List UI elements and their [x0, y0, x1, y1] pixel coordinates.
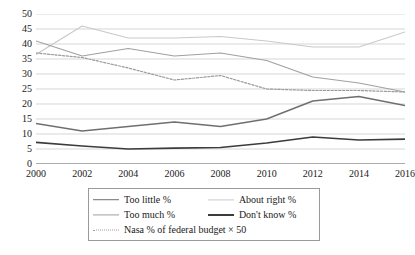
legend-row: Nasa % of federal budget × 50: [93, 222, 315, 237]
legend-item[interactable]: Nasa % of federal budget × 50: [93, 224, 211, 235]
x-tick-label: 2004: [118, 168, 138, 180]
legend-row: Too much %Don't know %: [93, 207, 315, 222]
legend-item[interactable]: Don't know %: [208, 209, 315, 220]
legend-line-swatch-icon: [208, 196, 234, 204]
legend-label: Don't know %: [239, 209, 296, 220]
legend-label: About right %: [239, 194, 296, 205]
legend-row: Too little %About right %: [93, 192, 315, 207]
x-tick-label: 2012: [303, 168, 323, 180]
legend-line-swatch-icon: [208, 211, 234, 219]
legend-label: Too much %: [124, 209, 175, 220]
y-tick-label: 15: [0, 114, 32, 124]
x-tick-label: 2002: [72, 168, 92, 180]
series-line: [36, 137, 405, 149]
legend-label: Too little %: [124, 194, 171, 205]
y-tick-label: 50: [0, 9, 32, 19]
y-tick-label: 45: [0, 24, 32, 34]
x-tick-label: 2006: [164, 168, 184, 180]
legend-item[interactable]: Too much %: [93, 209, 208, 220]
legend-label: Nasa % of federal budget × 50: [124, 224, 246, 235]
legend: Too little %About right %Too much %Don't…: [88, 188, 320, 241]
legend-item[interactable]: About right %: [208, 194, 315, 205]
x-tick-label: 2000: [26, 168, 46, 180]
y-axis: 05101520253035404550: [0, 14, 32, 164]
plot-svg: [36, 14, 405, 164]
y-tick-label: 35: [0, 54, 32, 64]
y-tick-label: 40: [0, 39, 32, 49]
x-tick-label: 2016: [395, 168, 415, 180]
plot-area: [36, 14, 405, 164]
x-tick-label: 2014: [349, 168, 369, 180]
legend-item[interactable]: Too little %: [93, 194, 208, 205]
legend-line-swatch-icon: [93, 196, 119, 204]
y-tick-label: 10: [0, 129, 32, 139]
series-line: [36, 41, 405, 92]
y-tick-label: 30: [0, 69, 32, 79]
y-tick-label: 25: [0, 84, 32, 94]
y-tick-label: 20: [0, 99, 32, 109]
x-tick-label: 2010: [257, 168, 277, 180]
legend-line-swatch-icon: [93, 226, 119, 234]
x-axis: 200020022004200620082010201220142016: [36, 166, 405, 182]
legend-line-swatch-icon: [93, 211, 119, 219]
series-line: [36, 97, 405, 132]
y-tick-label: 5: [0, 144, 32, 154]
x-tick-label: 2008: [211, 168, 231, 180]
series-line: [36, 26, 405, 55]
